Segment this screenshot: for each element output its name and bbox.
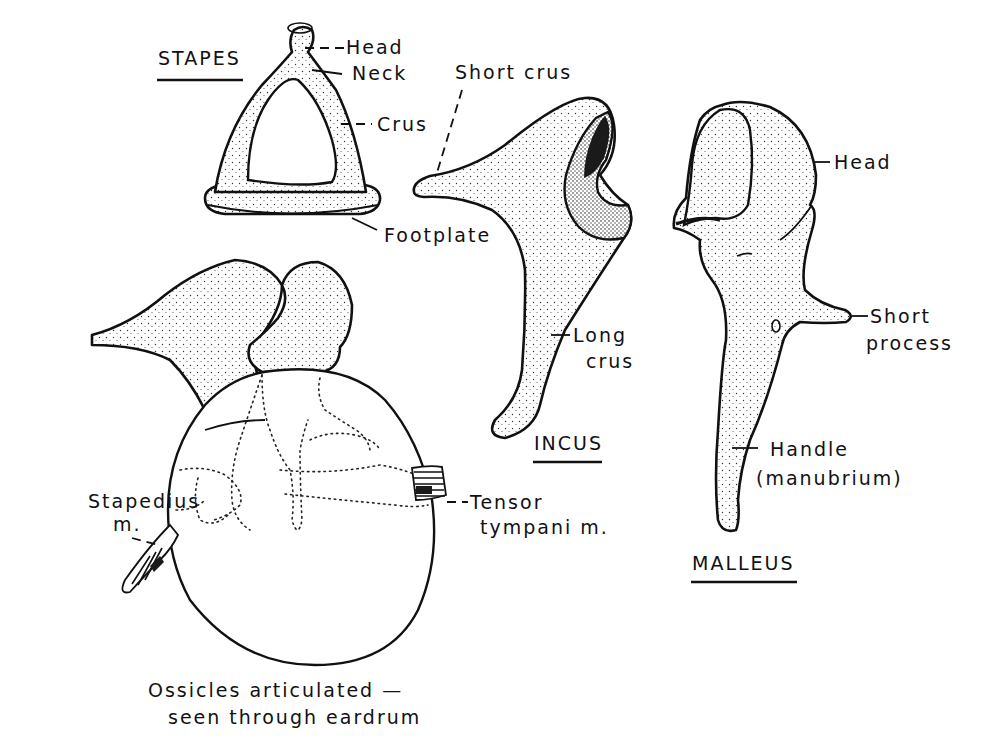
stapes-footplate-label: Footplate — [384, 224, 491, 246]
stapes-crus-label: Crus — [377, 113, 428, 135]
stapes-footplate-leader — [352, 218, 377, 230]
malleus-short-process-label-line2: process — [866, 332, 953, 354]
incus-long-crus-label-line1: Long — [573, 324, 627, 346]
malleus-group: Head Short process Handle (manubrium) MA… — [674, 102, 953, 582]
stapes-neck-label: Neck — [352, 62, 407, 84]
malleus-handle-label-line2: (manubrium) — [756, 467, 903, 489]
articulated-illustration — [92, 260, 446, 665]
stapedius-label-line1: Stapedius — [88, 490, 200, 512]
malleus-title: MALLEUS — [692, 552, 795, 574]
stapedius-label-line2: m. — [113, 513, 142, 535]
incus-short-crus-leader — [436, 90, 462, 176]
stapes-group: STAPES Head Neck Crus Footplate — [157, 23, 491, 246]
tensor-tympani-label-line1: Tensor — [469, 491, 543, 513]
stapes-head-label: Head — [346, 36, 404, 58]
incus-title: INCUS — [534, 432, 603, 454]
tensor-tympani-label-line2: tympani m. — [480, 516, 609, 538]
incus-illustration — [414, 98, 631, 438]
incus-group: Short crus Long crus INCUS — [414, 61, 634, 462]
incus-long-crus-label-line2: crus — [586, 350, 634, 372]
malleus-handle-label-line1: Handle — [770, 438, 849, 460]
malleus-head-label: Head — [834, 151, 892, 173]
stapes-title: STAPES — [158, 47, 241, 69]
incus-short-crus-label: Short crus — [455, 61, 572, 83]
caption-line1: Ossicles articulated — — [148, 679, 403, 701]
ossicles-diagram: STAPES Head Neck Crus Footplate Short cr… — [0, 0, 985, 753]
caption-line2: seen through eardrum — [168, 706, 421, 728]
malleus-short-process-label-line1: Short — [870, 305, 931, 327]
